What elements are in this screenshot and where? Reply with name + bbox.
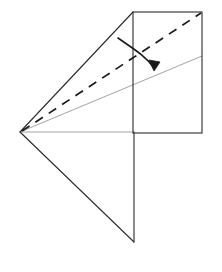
origami-diagram-svg <box>0 0 222 272</box>
fold-arrow-head-icon <box>149 60 160 71</box>
fold-direction-arrow <box>118 38 160 71</box>
diagonal-guide-line <box>20 56 202 132</box>
origami-diagram-canvas <box>0 0 222 272</box>
valley-crease-dashed <box>22 13 201 131</box>
upper-flap-edge <box>20 12 133 132</box>
paper-rectangle <box>133 12 202 133</box>
lower-flap-edge <box>20 132 134 242</box>
fold-arrow-shaft <box>118 38 154 68</box>
